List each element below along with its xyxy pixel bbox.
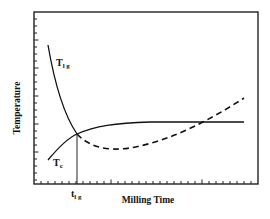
t-c-label: Tc: [53, 157, 63, 170]
t-lg-dashed-curve: [77, 98, 244, 149]
x-axis-title: Milling Time: [122, 195, 175, 205]
y-axis-title: Temperature: [12, 82, 22, 135]
chart: Tl g Tc tl g Milling Time Temperature: [0, 0, 270, 219]
plot-frame: [34, 12, 258, 184]
t-lg-time-label: tl g: [71, 188, 82, 201]
t-lg-label: Tl g: [56, 57, 70, 70]
